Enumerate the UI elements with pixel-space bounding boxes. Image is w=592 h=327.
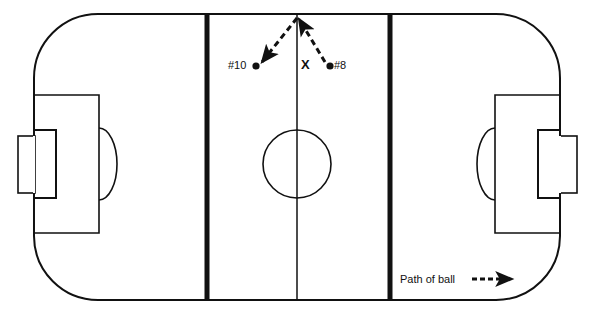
player-10-dot	[252, 62, 259, 69]
left-goal-cage	[18, 136, 35, 193]
legend-label: Path of ball	[400, 274, 455, 285]
player-8-label: #8	[334, 60, 346, 71]
player-8-dot	[326, 62, 333, 69]
field-diagram: #10 X #8 Path of ball	[0, 0, 592, 327]
field-svg	[0, 0, 592, 327]
right-goal-cage	[560, 136, 577, 193]
player-10-label: #10	[228, 60, 246, 71]
spot-x-label: X	[301, 58, 310, 71]
